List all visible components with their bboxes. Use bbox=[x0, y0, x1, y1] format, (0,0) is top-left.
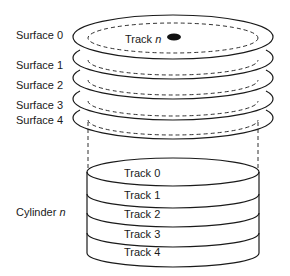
track-label-text: Track bbox=[125, 33, 152, 45]
platter-2 bbox=[73, 70, 273, 99]
surface-label-1: Surface 1 bbox=[16, 59, 63, 71]
disk-cylinder-diagram: Surface 0 Surface 1 Surface 2 Surface 3 … bbox=[0, 0, 290, 276]
platter-4 bbox=[73, 97, 273, 139]
cylinder bbox=[87, 158, 259, 267]
surface-label-0: Surface 0 bbox=[16, 29, 63, 41]
cylinder-n-label: Cylinder n bbox=[16, 206, 66, 218]
cylinder-track-4: Track 4 bbox=[124, 246, 160, 258]
track-label-var: n bbox=[155, 33, 161, 45]
cylinder-track-3: Track 3 bbox=[124, 228, 160, 240]
surface-label-4: Surface 4 bbox=[16, 114, 63, 126]
surface-label-3: Surface 3 bbox=[16, 99, 63, 111]
surface-label-2: Surface 2 bbox=[16, 79, 63, 91]
cylinder-track-2: Track 2 bbox=[124, 208, 160, 220]
read-head-dot bbox=[167, 34, 181, 41]
cylinder-label-text: Cylinder bbox=[16, 206, 56, 218]
track-n-label: Track n bbox=[125, 33, 161, 45]
cylinder-track-0: Track 0 bbox=[124, 167, 160, 179]
cylinder-track-1: Track 1 bbox=[124, 189, 160, 201]
cylinder-label-var: n bbox=[59, 206, 65, 218]
